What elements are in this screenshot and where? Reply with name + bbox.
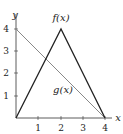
svg-text:4: 4 [3, 24, 9, 34]
series-g [16, 29, 105, 118]
x-tick-labels: 1 2 3 4 [35, 123, 108, 133]
label-g: g(x) [53, 84, 73, 95]
svg-text:1: 1 [3, 91, 9, 101]
svg-text:3: 3 [3, 46, 9, 56]
svg-text:2: 2 [3, 68, 9, 78]
label-f: f(x) [51, 12, 69, 23]
svg-text:1: 1 [35, 123, 41, 133]
svg-text:2: 2 [58, 123, 64, 133]
svg-text:3: 3 [80, 123, 86, 133]
x-axis-label: x [115, 112, 121, 123]
chart: 1 2 3 4 1 2 3 4 y x f(x) g(x) [0, 0, 123, 134]
y-axis-label: y [11, 9, 18, 20]
svg-text:4: 4 [102, 123, 108, 133]
y-tick-labels: 1 2 3 4 [3, 24, 9, 101]
